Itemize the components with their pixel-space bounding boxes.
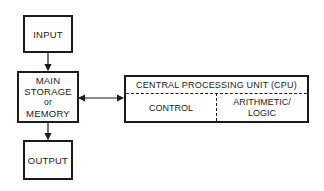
- input-box: INPUT: [23, 15, 73, 53]
- output-box: OUTPUT: [23, 140, 73, 180]
- arithmetic-label: ARITHMETIC/: [233, 97, 291, 108]
- memory-line-3: or: [44, 97, 52, 108]
- control-label: CONTROL: [149, 103, 193, 113]
- logic-label: LOGIC: [248, 108, 276, 119]
- memory-line-4: MEMORY: [26, 108, 70, 119]
- cpu-title: CENTRAL PROCESSING UNIT (CPU): [126, 77, 307, 93]
- arithmetic-logic-section: ARITHMETIC/ LOGIC: [217, 94, 307, 121]
- input-label: INPUT: [33, 29, 63, 40]
- memory-line-2: STORAGE: [24, 86, 72, 97]
- main-storage-box: MAIN STORAGE or MEMORY: [17, 71, 79, 123]
- memory-line-1: MAIN: [36, 75, 61, 86]
- cpu-box: CENTRAL PROCESSING UNIT (CPU) CONTROL AR…: [124, 75, 309, 123]
- control-section: CONTROL: [126, 94, 216, 121]
- output-label: OUTPUT: [28, 155, 68, 166]
